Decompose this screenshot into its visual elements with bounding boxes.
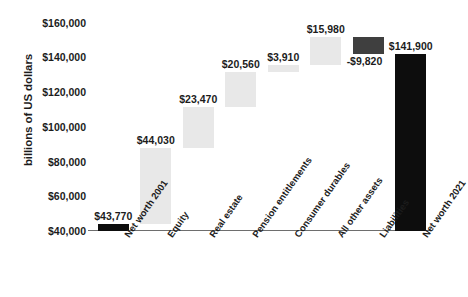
bar-value-label: $44,030 bbox=[121, 134, 191, 146]
x-tick-label: Pension entitlements bbox=[250, 233, 259, 239]
bar-value-label: -$9,820 bbox=[312, 55, 382, 67]
bar-value-label: $3,910 bbox=[248, 51, 318, 63]
bar-value-label: $23,470 bbox=[163, 93, 233, 105]
y-tick-label: $120,000 bbox=[24, 86, 86, 98]
y-tick-label: $160,000 bbox=[24, 17, 86, 29]
x-axis-tick-labels: Net worth 2001EquityReal estatePension e… bbox=[92, 233, 432, 297]
y-axis-tick-labels: $40,000$60,000$80,000$100,000$120,000$14… bbox=[24, 0, 86, 297]
bar-real-estate bbox=[183, 107, 214, 148]
x-tick-label: Equity bbox=[165, 233, 174, 239]
bar-consumer-durables bbox=[268, 65, 299, 72]
y-tick-label: $80,000 bbox=[24, 156, 86, 168]
bar-value-label: $15,980 bbox=[291, 23, 361, 35]
x-tick-label: Net worth 2001 bbox=[122, 233, 131, 239]
y-tick-label: $40,000 bbox=[24, 225, 86, 237]
y-tick-label: $100,000 bbox=[24, 121, 86, 133]
x-tick-label: Real estate bbox=[207, 233, 216, 239]
bar-pension-entitlements bbox=[225, 72, 256, 108]
x-tick-label: All other assets bbox=[335, 233, 344, 239]
y-tick-label: $140,000 bbox=[24, 51, 86, 63]
bar-value-label: $141,900 bbox=[376, 40, 446, 52]
x-tick-label: Liabilities bbox=[377, 233, 386, 239]
x-tick-label: Net worth 2021 bbox=[420, 233, 429, 239]
x-tick-label: Consumer durables bbox=[292, 233, 301, 239]
y-tick-label: $60,000 bbox=[24, 190, 86, 202]
plot-area: $43,770$44,030$23,470$20,560$3,910$15,98… bbox=[92, 14, 432, 231]
